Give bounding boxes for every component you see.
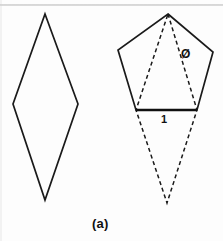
geometry-figure [0, 0, 223, 241]
figure-caption: (a) [92, 217, 109, 230]
pentagon-shape [118, 14, 213, 110]
rhombus-shape [13, 14, 78, 200]
inscribed-rhombus-shape [136, 14, 197, 203]
figure-container: Ø 1 (a) [0, 0, 223, 241]
angle-symbol-label: Ø [181, 48, 190, 60]
side-length-label: 1 [161, 114, 167, 125]
